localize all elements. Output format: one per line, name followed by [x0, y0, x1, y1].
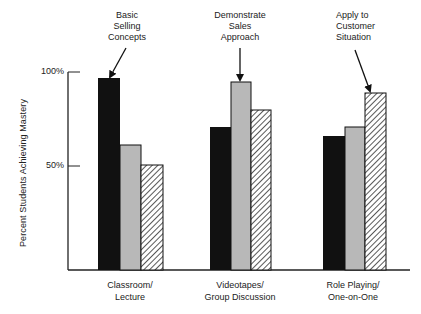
bar-basic-selling-concepts: [98, 78, 120, 270]
category-line: Role Playing/: [298, 279, 408, 291]
annotation-line: Customer: [336, 21, 416, 32]
annotation-apply-customer-situation: Apply to Customer Situation: [336, 10, 416, 43]
annotation-line: Apply to: [336, 10, 416, 21]
category-label-classroom-lecture: Classroom/ Lecture: [75, 279, 185, 303]
category-line: Group Discussion: [185, 291, 295, 303]
annotation-line: Selling: [87, 21, 167, 32]
bar-demonstrate-sales-approach: [120, 145, 141, 270]
chart-plot: [0, 0, 421, 314]
tick-label-100: 100%: [24, 66, 64, 76]
annotation-demonstrate-sales-approach: Demonstrate Sales Approach: [200, 10, 280, 43]
annotation-line: Approach: [200, 32, 280, 43]
category-label-videotapes: Videotapes/ Group Discussion: [185, 279, 295, 303]
annotation-basic-selling-concepts: Basic Selling Concepts: [87, 10, 167, 43]
bar-group-classroom-lecture: [98, 78, 163, 270]
bar-demonstrate-sales-approach: [345, 127, 365, 270]
bar-basic-selling-concepts: [323, 136, 345, 270]
bar-apply-customer-situation: [251, 110, 271, 270]
category-line: Lecture: [75, 291, 185, 303]
annotation-line: Concepts: [87, 32, 167, 43]
tick-label-50: 50%: [24, 160, 64, 170]
category-line: Classroom/: [75, 279, 185, 291]
annotation-line: Sales: [200, 21, 280, 32]
bar-demonstrate-sales-approach: [231, 82, 251, 270]
arrow-basic-selling: [110, 48, 126, 77]
annotation-line: Demonstrate: [200, 10, 280, 21]
annotation-line: Basic: [87, 10, 167, 21]
y-axis-label: Percent Students Achieving Mastery: [18, 98, 28, 248]
bar-group-role-playing: [323, 93, 386, 270]
bar-apply-customer-situation: [365, 93, 386, 270]
category-line: One-on-One: [298, 291, 408, 303]
category-line: Videotapes/: [185, 279, 295, 291]
arrow-apply-customer: [355, 50, 370, 91]
bar-group-videotapes: [210, 82, 271, 270]
bar-chart: Percent Students Achieving Mastery 100% …: [0, 0, 421, 314]
bar-basic-selling-concepts: [210, 127, 231, 270]
category-label-role-playing: Role Playing/ One-on-One: [298, 279, 408, 303]
annotation-line: Situation: [336, 32, 416, 43]
bar-apply-customer-situation: [141, 165, 163, 270]
